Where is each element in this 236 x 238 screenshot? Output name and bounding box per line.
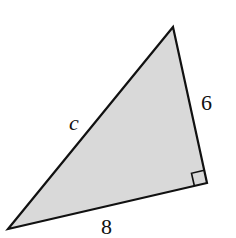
hypotenuse-label: c: [69, 110, 79, 135]
bottom-leg-label: 8: [101, 214, 112, 238]
right-triangle-diagram: c 6 8: [0, 0, 236, 238]
triangle-shape: [8, 27, 207, 229]
vertical-leg-label: 6: [201, 90, 212, 115]
